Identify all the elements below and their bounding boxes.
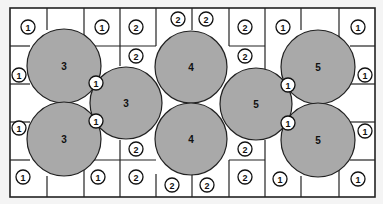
number-badge-1: 1 bbox=[351, 20, 365, 34]
badge-label: 2 bbox=[204, 181, 209, 191]
number-badge-1: 1 bbox=[358, 124, 372, 138]
number-badge-2: 2 bbox=[129, 142, 143, 156]
badge-label: 2 bbox=[133, 52, 138, 62]
badge-label: 2 bbox=[133, 23, 138, 33]
number-badge-1: 1 bbox=[12, 68, 26, 82]
badge-label: 2 bbox=[175, 15, 180, 25]
badge-label: 1 bbox=[93, 79, 98, 89]
badge-label: 2 bbox=[169, 181, 174, 191]
badge-label: 2 bbox=[242, 145, 247, 155]
number-badge-1: 1 bbox=[358, 68, 372, 82]
disc-label: 5 bbox=[315, 135, 321, 146]
number-badge-2: 2 bbox=[238, 170, 252, 184]
number-badge-1: 1 bbox=[21, 20, 35, 34]
badge-label: 1 bbox=[16, 124, 21, 134]
number-badge-2: 2 bbox=[200, 178, 214, 192]
number-badge-1: 1 bbox=[276, 20, 290, 34]
badge-label: 1 bbox=[25, 23, 30, 33]
disc-3: 3 bbox=[27, 102, 101, 176]
badge-label: 1 bbox=[20, 173, 25, 183]
badge-label: 2 bbox=[133, 145, 138, 155]
number-badge-2: 2 bbox=[171, 12, 185, 26]
badge-label: 1 bbox=[99, 23, 104, 33]
badge-label: 2 bbox=[242, 23, 247, 33]
badge-label: 2 bbox=[203, 15, 208, 25]
disc-label: 3 bbox=[123, 98, 129, 109]
number-badge-1: 1 bbox=[91, 170, 105, 184]
number-badge-2: 2 bbox=[165, 178, 179, 192]
number-badge-1: 1 bbox=[281, 116, 295, 130]
number-badge-1: 1 bbox=[89, 114, 103, 128]
number-badge-2: 2 bbox=[129, 170, 143, 184]
badge-label: 1 bbox=[16, 71, 21, 81]
number-badge-1: 1 bbox=[351, 172, 365, 186]
badge-label: 1 bbox=[355, 175, 360, 185]
number-badge-2: 2 bbox=[129, 20, 143, 34]
badge-label: 1 bbox=[362, 71, 367, 81]
badge-label: 1 bbox=[362, 127, 367, 137]
badge-label: 1 bbox=[280, 23, 285, 33]
number-badge-1: 1 bbox=[281, 78, 295, 92]
number-badge-1: 1 bbox=[89, 76, 103, 90]
disc-label: 4 bbox=[188, 134, 194, 145]
number-badge-2: 2 bbox=[238, 20, 252, 34]
disc-5: 5 bbox=[220, 68, 292, 140]
badge-label: 1 bbox=[285, 119, 290, 129]
badge-label: 1 bbox=[355, 23, 360, 33]
disc-5: 5 bbox=[281, 30, 355, 104]
number-badge-1: 1 bbox=[12, 121, 26, 135]
number-badge-1: 1 bbox=[16, 170, 30, 184]
badge-label: 1 bbox=[95, 173, 100, 183]
number-badge-2: 2 bbox=[238, 49, 252, 63]
number-badge-1: 1 bbox=[95, 20, 109, 34]
number-badge-2: 2 bbox=[129, 49, 143, 63]
badge-label: 2 bbox=[242, 173, 247, 183]
disc-label: 4 bbox=[188, 62, 194, 73]
number-badge-2: 2 bbox=[238, 142, 252, 156]
disc-label: 5 bbox=[253, 99, 259, 110]
badge-label: 1 bbox=[285, 81, 290, 91]
badge-label: 1 bbox=[93, 117, 98, 127]
disc-label: 5 bbox=[315, 62, 321, 73]
circle-packing-diagram: 33344555 1122221122111111112211222211 bbox=[0, 0, 383, 204]
disc-3: 3 bbox=[27, 29, 101, 103]
disc-4: 4 bbox=[155, 103, 227, 175]
disc-4: 4 bbox=[155, 31, 227, 103]
disc-5: 5 bbox=[281, 103, 355, 177]
badge-label: 1 bbox=[277, 175, 282, 185]
number-badge-1: 1 bbox=[273, 172, 287, 186]
badge-label: 2 bbox=[133, 173, 138, 183]
badge-label: 2 bbox=[242, 52, 247, 62]
disc-label: 3 bbox=[61, 134, 67, 145]
number-badge-2: 2 bbox=[199, 12, 213, 26]
disc-label: 3 bbox=[61, 61, 67, 72]
